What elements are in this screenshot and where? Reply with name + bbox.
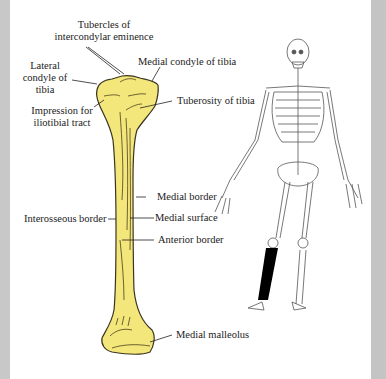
label-medial-surface: Medial surface [155,212,218,224]
label-tubercles-line2: intercondylar eminence [50,31,158,43]
label-lateral-condyle: Lateral condyle of tibia [18,60,72,96]
skeleton-inset [215,39,362,310]
label-medial-condyle: Medial condyle of tibia [138,56,236,68]
highlighted-tibia-inset [258,248,278,300]
label-impression-line2: iliotibial tract [27,117,97,129]
label-lateral-line1: Lateral [18,60,72,72]
label-tubercles: Tubercles of intercondylar eminence [50,19,158,43]
label-impression: Impression for iliotibial tract [27,105,97,129]
label-lateral-line2: condyle of [18,72,72,84]
label-medial-malleolus: Medial malleolus [176,329,249,341]
label-impression-line1: Impression for [27,105,97,117]
label-medial-border: Medial border [157,191,217,203]
label-interosseous-border: Interosseous border [24,213,107,225]
label-lateral-line3: tibia [18,84,72,96]
label-anterior-border: Anterior border [158,234,224,246]
label-tubercles-line1: Tubercles of [50,19,158,31]
label-tuberosity: Tuberosity of tibia [177,95,255,107]
